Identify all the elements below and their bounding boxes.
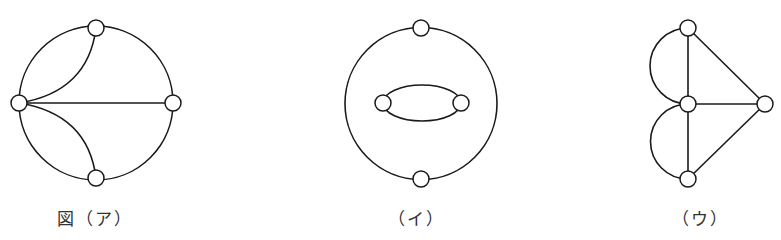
figure-i-node-bottom <box>413 171 429 187</box>
figure-u-edge-top-right <box>688 28 765 104</box>
figure-a-edge-left-bottom-inner <box>19 103 96 178</box>
figure-u-node-top <box>680 20 696 36</box>
figure-i-node-inner-right <box>453 95 469 111</box>
figure-a-node-bottom <box>88 170 104 186</box>
figure-a-node-left <box>11 95 27 111</box>
figure-u-node-middle <box>680 96 696 112</box>
figure-i-node-inner-left <box>375 95 391 111</box>
figure-a-caption: 図（ア） <box>57 205 133 230</box>
figure-u-edge-top-middle-arc <box>650 28 688 104</box>
figure-u-edge-middle-bottom-arc <box>651 104 689 179</box>
figure-a-node-top <box>88 20 104 36</box>
graph-figures <box>0 0 781 240</box>
figure-i-caption: （イ） <box>388 205 445 230</box>
figure-i-node-top <box>413 20 429 36</box>
figure-a-node-right <box>165 95 181 111</box>
figure-u-node-bottom <box>680 171 696 187</box>
figure-a-graph <box>11 20 181 186</box>
figure-i-graph <box>345 20 497 187</box>
figure-u-node-right <box>757 96 773 112</box>
figure-a-edge-left-top-inner <box>19 28 96 103</box>
figure-u-caption: （ウ） <box>672 205 729 230</box>
figure-u-edge-bottom-right <box>688 104 765 179</box>
figure-i-inner-ellipse <box>383 85 461 121</box>
figure-u-graph <box>650 20 773 187</box>
figure-i-outer-circle <box>345 28 497 180</box>
